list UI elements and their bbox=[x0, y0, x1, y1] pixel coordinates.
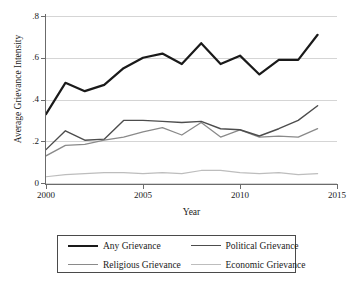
legend-entry-economic-grievance[interactable]: Economic Grievance bbox=[177, 260, 296, 270]
y-tick-label: .8 bbox=[32, 12, 39, 21]
x-tick bbox=[240, 184, 241, 189]
x-tick-label: 2010 bbox=[220, 191, 260, 200]
legend-entry-political-grievance[interactable]: Political Grievance bbox=[177, 241, 296, 251]
legend-swatch-economic-grievance bbox=[191, 264, 221, 265]
x-tick-label: 2005 bbox=[123, 191, 163, 200]
legend-label-religious-grievance: Religious Grievance bbox=[103, 260, 181, 270]
y-axis-label: Average Grievance Intensity bbox=[13, 9, 23, 169]
legend-swatch-political-grievance bbox=[191, 245, 221, 246]
chart-legend: Any Grievance Political Grievance Religi… bbox=[57, 235, 296, 273]
legend-row: Any Grievance Political Grievance bbox=[58, 236, 295, 255]
legend-label-economic-grievance: Economic Grievance bbox=[226, 260, 306, 270]
legend-label-political-grievance: Political Grievance bbox=[226, 241, 299, 251]
y-tick-label: 0 bbox=[35, 179, 40, 188]
x-tick-label: 2015 bbox=[317, 191, 352, 200]
series-line-economic-grievance bbox=[46, 170, 318, 176]
x-axis-label: Year bbox=[46, 207, 337, 217]
series-line-political-grievance bbox=[46, 106, 318, 150]
legend-entry-religious-grievance[interactable]: Religious Grievance bbox=[58, 260, 177, 270]
x-axis-line bbox=[45, 184, 337, 185]
series-line-religious-grievance bbox=[46, 122, 318, 155]
series-line-any-grievance bbox=[46, 35, 318, 114]
y-tick-label: .6 bbox=[32, 53, 39, 62]
legend-label-any-grievance: Any Grievance bbox=[103, 241, 161, 251]
gridline bbox=[46, 183, 337, 184]
plot-area bbox=[46, 16, 337, 183]
legend-row: Religious Grievance Economic Grievance bbox=[58, 255, 295, 274]
series-lines bbox=[46, 16, 337, 183]
legend-swatch-religious-grievance bbox=[68, 264, 98, 265]
x-tick bbox=[46, 184, 47, 189]
y-tick-label: .4 bbox=[32, 95, 39, 104]
legend-swatch-any-grievance bbox=[68, 245, 98, 247]
grievance-intensity-chart: 0.2.4.6.8 2000200520102015 Average Griev… bbox=[0, 0, 352, 282]
x-tick bbox=[337, 184, 338, 189]
y-tick-label: .2 bbox=[32, 137, 39, 146]
x-tick bbox=[143, 184, 144, 189]
legend-entry-any-grievance[interactable]: Any Grievance bbox=[58, 241, 177, 251]
x-tick-label: 2000 bbox=[26, 191, 66, 200]
